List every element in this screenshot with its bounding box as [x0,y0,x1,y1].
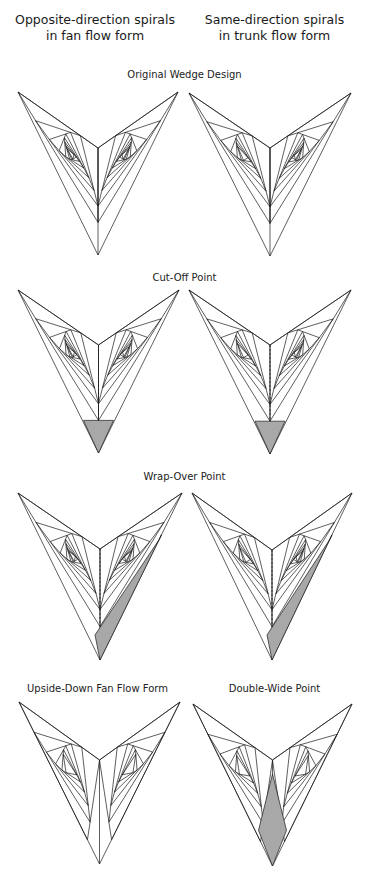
wedge-diagrams [0,0,369,889]
